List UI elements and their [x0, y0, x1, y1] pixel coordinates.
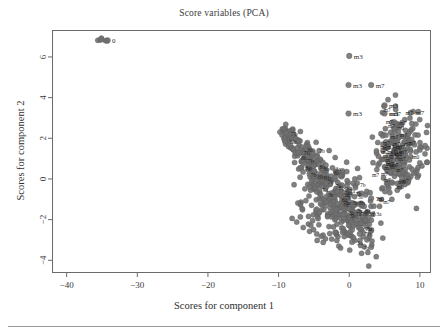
svg-text:8b: 8b [359, 200, 365, 206]
svg-text:10: 10 [415, 280, 425, 290]
footer-divider [8, 326, 440, 327]
svg-text:7b: 7b [362, 211, 368, 217]
svg-text:3b: 3b [289, 138, 297, 146]
svg-text:m7: m7 [384, 177, 391, 183]
svg-text:m7: m7 [384, 165, 391, 171]
svg-text:−40: −40 [60, 280, 75, 290]
svg-text:2: 2 [39, 136, 49, 141]
svg-text:m7: m7 [376, 82, 385, 90]
y-axis-label: Scores for component 2 [15, 51, 26, 251]
svg-text:m3: m3 [353, 82, 362, 90]
svg-text:3b: 3b [358, 194, 364, 200]
svg-text:0: 0 [112, 37, 116, 45]
svg-text:m7: m7 [394, 111, 401, 117]
svg-text:m7: m7 [386, 157, 393, 163]
svg-text:7b: 7b [311, 172, 317, 178]
svg-text:3b: 3b [328, 192, 334, 198]
svg-text:−30: −30 [130, 280, 145, 290]
svg-text:m7: m7 [383, 199, 390, 205]
svg-text:m3: m3 [353, 110, 362, 118]
svg-text:7b: 7b [291, 130, 299, 138]
svg-text:4: 4 [39, 95, 49, 100]
svg-text:8b: 8b [324, 166, 330, 172]
svg-text:7a: 7a [350, 188, 356, 194]
x-axis-label: Scores for component 1 [0, 300, 448, 311]
svg-text:m7: m7 [406, 110, 413, 116]
svg-text:m0: m0 [397, 184, 404, 190]
pca-score-plot-figure: Score variables (PCA) −40−30−20−10010 −4… [0, 0, 448, 331]
data-points [95, 36, 430, 269]
svg-text:3a: 3a [367, 226, 373, 232]
svg-text:m7: m7 [400, 132, 407, 138]
svg-text:8b: 8b [301, 155, 307, 161]
svg-text:0: 0 [347, 280, 352, 290]
svg-text:m7: m7 [372, 172, 379, 178]
svg-text:−10: −10 [272, 280, 287, 290]
svg-text:8b: 8b [334, 170, 340, 176]
svg-text:7a: 7a [323, 187, 329, 193]
x-axis-ticks: −40−30−20−10010 [60, 273, 425, 290]
svg-text:−20: −20 [201, 280, 216, 290]
svg-text:−2: −2 [39, 215, 49, 225]
svg-text:8b: 8b [339, 185, 345, 191]
svg-text:7a: 7a [343, 202, 349, 208]
svg-text:m7: m7 [387, 144, 394, 150]
svg-text:3a: 3a [369, 211, 375, 217]
svg-text:−4: −4 [39, 255, 49, 265]
svg-text:m7: m7 [395, 144, 402, 150]
svg-text:3b: 3b [353, 200, 359, 206]
svg-text:7b: 7b [319, 148, 325, 154]
svg-text:3b: 3b [349, 210, 355, 216]
svg-text:m7: m7 [388, 123, 395, 129]
y-axis-ticks: −4−20246 [39, 54, 53, 265]
svg-text:m7: m7 [391, 134, 398, 140]
svg-text:m7: m7 [383, 107, 390, 113]
svg-text:7b: 7b [360, 182, 366, 188]
svg-text:m7: m7 [381, 171, 388, 177]
svg-text:8b: 8b [308, 147, 314, 153]
svg-text:3a: 3a [376, 211, 382, 217]
svg-text:m0: m0 [397, 125, 404, 131]
svg-text:0: 0 [39, 176, 49, 181]
svg-text:7b: 7b [328, 179, 334, 185]
scatter-plot-canvas: −40−30−20−10010 −4−20246 0m3m3m7m3m3m3m7… [0, 0, 448, 331]
svg-text:m7: m7 [415, 109, 424, 117]
svg-text:m0: m0 [412, 154, 419, 160]
svg-text:m7: m7 [394, 151, 401, 157]
svg-text:6: 6 [39, 54, 49, 59]
svg-text:m3: m3 [354, 53, 363, 61]
svg-text:m7: m7 [409, 140, 416, 146]
svg-text:7a: 7a [364, 245, 370, 251]
